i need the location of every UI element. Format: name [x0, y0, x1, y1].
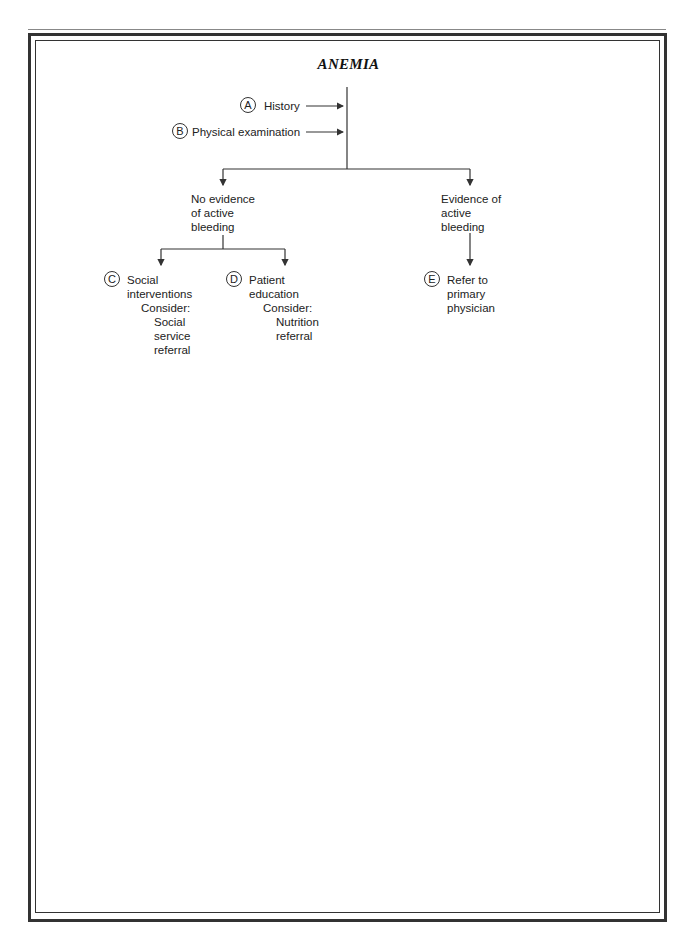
- bleeding-line-3: bleeding: [441, 220, 501, 234]
- step-d-line-1: Patient: [249, 273, 319, 287]
- step-e-node: Refer to primary physician: [447, 273, 495, 315]
- no-bleeding-node: No evidence of active bleeding: [191, 192, 255, 234]
- bleeding-line-1: Evidence of: [441, 192, 501, 206]
- no-bleeding-line-1: No evidence: [191, 192, 255, 206]
- step-d-line-3: Consider:: [249, 301, 319, 315]
- step-d-line-2: education: [249, 287, 319, 301]
- bleeding-line-2: active: [441, 206, 501, 220]
- step-c-line-4: Social: [127, 315, 192, 329]
- step-c-node: Social interventions Consider: Social se…: [127, 273, 192, 357]
- step-e-line-3: physician: [447, 301, 495, 315]
- step-a-label: History: [264, 99, 300, 113]
- flowchart-connectors: [0, 0, 697, 941]
- bleeding-node: Evidence of active bleeding: [441, 192, 501, 234]
- step-d-line-5: referral: [249, 329, 319, 343]
- step-d-node: Patient education Consider: Nutrition re…: [249, 273, 319, 343]
- step-e-line-2: primary: [447, 287, 495, 301]
- step-b-label: Physical examination: [192, 125, 300, 139]
- step-c-line-3: Consider:: [127, 301, 192, 315]
- step-c-marker: C: [104, 271, 120, 287]
- step-d-marker: D: [226, 271, 242, 287]
- step-e-line-1: Refer to: [447, 273, 495, 287]
- step-d-line-4: Nutrition: [249, 315, 319, 329]
- step-c-line-2: interventions: [127, 287, 192, 301]
- step-c-line-5: service: [127, 329, 192, 343]
- step-a-marker: A: [240, 97, 256, 113]
- step-b-marker: B: [172, 123, 188, 139]
- no-bleeding-line-2: of active: [191, 206, 255, 220]
- step-e-marker: E: [424, 271, 440, 287]
- step-c-line-1: Social: [127, 273, 192, 287]
- step-c-line-6: referral: [127, 343, 192, 357]
- no-bleeding-line-3: bleeding: [191, 220, 255, 234]
